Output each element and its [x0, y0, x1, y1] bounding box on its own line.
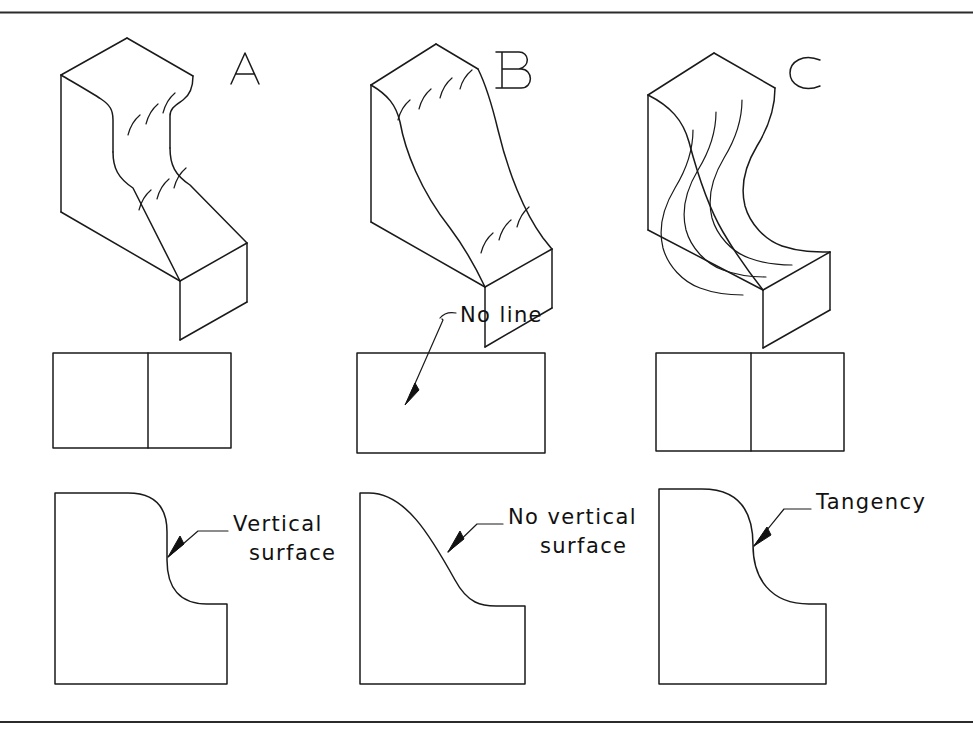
front-view-c	[659, 489, 826, 684]
leader-arrowhead	[405, 383, 419, 405]
top-view-a	[53, 353, 231, 448]
callout-no-vertical-surface-line1: No vertical	[508, 505, 637, 529]
callout-no-vertical-surface: No vertical surface	[448, 505, 637, 558]
drawing-sheet: A Vertical surface	[0, 0, 973, 741]
top-view-b	[357, 353, 545, 453]
callout-no-line: No line	[405, 303, 543, 405]
callout-no-line-text: No line	[460, 303, 543, 327]
top-view-c	[656, 353, 844, 451]
column-label-b: B	[496, 51, 530, 97]
drawing-page: A Vertical surface	[0, 0, 973, 741]
column-b: B No line No vertical su	[357, 44, 637, 684]
front-view-b	[360, 493, 525, 684]
callout-vertical-surface-line1: Vertical	[233, 512, 323, 536]
callout-vertical-surface: Vertical surface	[168, 512, 336, 565]
callout-tangency-line1: Tangency	[815, 490, 926, 514]
callout-no-vertical-surface-line2: surface	[540, 534, 627, 558]
callout-tangency: Tangency	[754, 490, 926, 546]
isometric-c	[648, 53, 830, 348]
column-label-c: C	[788, 51, 820, 97]
front-view-a	[55, 493, 227, 684]
leader-arrowhead	[448, 531, 464, 552]
column-c: C Tangency	[648, 51, 926, 684]
callout-vertical-surface-line2: surface	[249, 541, 336, 565]
column-label-a: A	[227, 47, 259, 93]
column-a: A Vertical surface	[53, 38, 336, 684]
leader-arrowhead	[754, 527, 771, 546]
isometric-a	[61, 38, 247, 340]
leader-arrowhead	[168, 536, 184, 557]
